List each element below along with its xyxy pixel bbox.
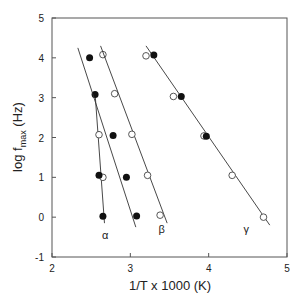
- filled-marker: [150, 52, 157, 59]
- y-tick-label: -1: [35, 252, 44, 263]
- y-tick-label: 3: [38, 93, 44, 104]
- open-marker: [144, 172, 151, 179]
- y-tick-label: 2: [38, 133, 44, 144]
- x-tick-label: 4: [206, 263, 212, 274]
- open-marker: [129, 131, 136, 138]
- filled-marker: [123, 174, 130, 181]
- filled-marker: [133, 212, 140, 219]
- series-annotation: α: [102, 229, 109, 241]
- open-marker: [260, 214, 267, 221]
- plot-frame: [52, 18, 287, 257]
- x-tick-label: 3: [128, 263, 134, 274]
- chart: 2345-10123451/T x 1000 (K)log fmax (Hz)α…: [0, 0, 298, 306]
- x-axis-label: 1/T x 1000 (K): [129, 278, 211, 293]
- fit-line-beta-left: [78, 48, 136, 227]
- x-tick-label: 5: [284, 263, 290, 274]
- y-tick-label: 0: [38, 212, 44, 223]
- fit-line-alpha: [95, 94, 104, 223]
- filled-marker: [96, 172, 103, 179]
- y-tick-label: 4: [38, 53, 44, 64]
- series-annotation: γ: [244, 223, 250, 235]
- filled-marker: [99, 213, 106, 220]
- y-axis-label: log fmax (Hz): [10, 102, 28, 172]
- y-tick-label: 1: [38, 172, 44, 183]
- open-marker: [111, 90, 118, 97]
- open-marker: [157, 212, 164, 219]
- open-marker: [170, 93, 177, 100]
- filled-marker: [178, 93, 185, 100]
- y-tick-label: 5: [38, 13, 44, 24]
- filled-marker: [203, 133, 210, 140]
- open-marker: [143, 53, 150, 60]
- filled-marker: [86, 54, 93, 61]
- filled-marker: [110, 132, 117, 139]
- open-marker: [229, 172, 236, 179]
- open-marker: [96, 131, 103, 138]
- x-tick-label: 2: [49, 263, 55, 274]
- series-annotation: β: [159, 223, 165, 235]
